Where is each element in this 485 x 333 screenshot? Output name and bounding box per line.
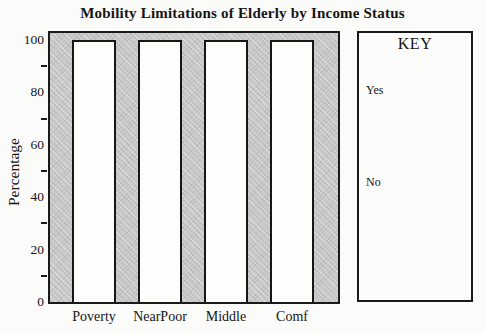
- legend-box: KEY Yes No: [357, 31, 473, 302]
- chart-title: Mobility Limitations of Elderly by Incom…: [0, 5, 485, 22]
- y-tick-label-60: 60: [0, 137, 44, 153]
- bar-poverty: [72, 40, 116, 302]
- legend-title: KEY: [359, 35, 471, 53]
- y-minor-tick-70: [41, 118, 47, 120]
- chart-figure: Mobility Limitations of Elderly by Incom…: [0, 0, 485, 333]
- bar-comf: [270, 40, 314, 302]
- y-tick-label-40: 40: [0, 189, 44, 205]
- legend-item-yes: Yes: [366, 82, 383, 98]
- y-tick-label-0: 0: [0, 294, 44, 310]
- bar-nearpoor: [138, 40, 182, 302]
- y-tick-label-100: 100: [0, 32, 44, 48]
- x-tick-label-comf: Comf: [247, 308, 337, 326]
- y-minor-tick-30: [41, 222, 47, 224]
- plot-area: [48, 31, 340, 304]
- y-minor-tick-10: [41, 275, 47, 277]
- y-axis-title: Percentage: [4, 102, 24, 242]
- y-minor-tick-50: [41, 170, 47, 172]
- legend-item-no: No: [366, 174, 381, 190]
- y-minor-tick-90: [41, 65, 47, 67]
- bar-middle: [204, 40, 248, 302]
- y-tick-label-20: 20: [0, 242, 44, 258]
- y-tick-label-80: 80: [0, 84, 44, 100]
